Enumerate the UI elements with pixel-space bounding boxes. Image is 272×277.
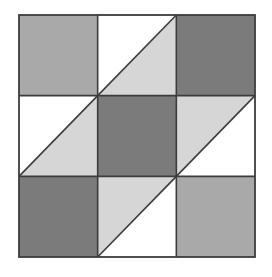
tile-cells-group xyxy=(19,15,255,257)
cell-r1c3 xyxy=(176,15,255,96)
cell-r1c1 xyxy=(19,15,98,96)
cell-r3c3 xyxy=(176,176,255,257)
cell-r2c2 xyxy=(98,96,177,177)
pattern-canvas xyxy=(0,0,272,277)
cell-r3c1 xyxy=(19,176,98,257)
pattern-figure xyxy=(0,0,272,277)
